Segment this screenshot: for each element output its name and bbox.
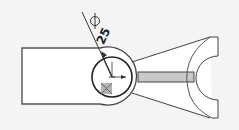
diameter-icon (91, 13, 100, 29)
sketch-geometry (0, 0, 239, 130)
drawing-canvas[interactable]: 25 (0, 0, 239, 130)
sketch-point-marker[interactable] (101, 83, 112, 94)
center-rib[interactable] (138, 72, 194, 82)
left-block[interactable] (22, 48, 100, 104)
